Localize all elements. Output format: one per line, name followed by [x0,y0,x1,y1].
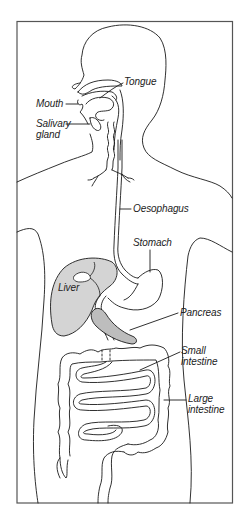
pancreas-shape [91,308,136,344]
diagram-artwork [0,0,244,516]
label-pancreas: Pancreas [180,307,221,318]
label-stomach: Stomach [133,237,172,248]
body-side-right [182,238,232,503]
digestive-system-diagram: Tongue Mouth Salivary gland Oesophagus S… [0,0,244,516]
rectum [98,451,124,503]
label-liver: Liver [58,282,79,293]
label-mouth: Mouth [36,98,63,109]
label-oesophagus: Oesophagus [133,203,189,214]
small-intestine-leader [140,352,180,370]
label-small-intestine-line2: intestine [181,356,217,367]
label-tongue: Tongue [124,76,156,87]
large-intestine-shape [57,345,170,478]
trachea [106,122,109,170]
bronchi [88,170,134,186]
body-side-left [17,229,45,504]
salivary-gland-shape [90,117,101,130]
label-large-intestine: Large intestine [188,393,224,415]
shoulder-left-outline [17,134,93,182]
tongue-leader [100,83,123,98]
head-outline [72,25,232,198]
label-small-intestine: Small intestine [181,345,217,367]
pancreas-leader [130,313,178,330]
label-large-intestine-line2: intestine [188,404,224,415]
label-salivary-gland-line1: Salivary [36,118,71,129]
label-small-intestine-line1: Small [181,345,217,356]
label-salivary-gland: Salivary gland [36,118,71,140]
tongue-shape [86,97,114,120]
label-large-intestine-line1: Large [188,393,224,404]
diagram-frame [17,22,233,504]
label-salivary-gland-line2: gland [36,129,71,140]
